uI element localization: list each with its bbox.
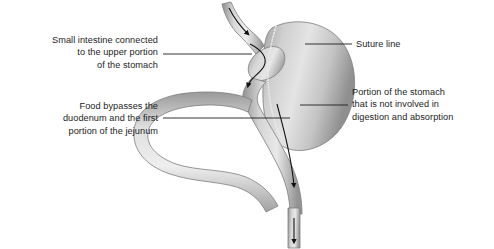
label-suture-line: Suture line xyxy=(356,38,486,50)
label-food-bypass: Food bypasses the duodenum and the first… xyxy=(8,100,158,137)
figure-canvas: Small intestine connected to the upper p… xyxy=(0,0,494,249)
label-not-involved: Portion of the stomach that is not invol… xyxy=(352,86,492,123)
bypassed-stomach xyxy=(263,22,355,151)
label-small-intestine: Small intestine connected to the upper p… xyxy=(8,34,158,71)
